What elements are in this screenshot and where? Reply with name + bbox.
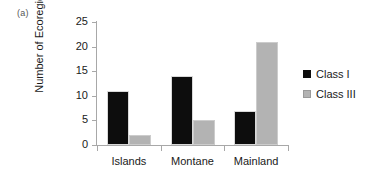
legend-item-class-iii[interactable]: Class III — [303, 84, 356, 104]
y-tick-label: 20 — [62, 41, 88, 52]
y-tick-label: 15 — [62, 65, 88, 76]
bar-montane-class-iii — [193, 120, 215, 145]
legend-label: Class III — [316, 88, 356, 100]
panel-label: (a) — [17, 8, 29, 18]
black-square-icon — [303, 70, 311, 78]
bar-islands-class-i — [107, 91, 129, 145]
bar-chart-figure: (a) Number of Ecoregions 0510152025 Isla… — [0, 0, 374, 179]
legend-item-class-i[interactable]: Class I — [303, 64, 356, 84]
x-tick-mark — [97, 146, 98, 151]
bar-montane-class-i — [171, 76, 193, 145]
x-axis-line — [96, 145, 289, 146]
legend-label: Class I — [316, 68, 350, 80]
x-tick-label-mainland: Mainland — [216, 155, 296, 168]
bar-islands-class-iii — [129, 135, 151, 145]
x-tick-mark — [224, 146, 225, 151]
y-tick-label: 25 — [62, 16, 88, 27]
bar-mainland-class-i — [234, 111, 256, 145]
y-tick-label: 10 — [62, 90, 88, 101]
chart-legend: Class IClass III — [303, 64, 356, 104]
y-tick-label: 0 — [62, 139, 88, 150]
y-axis-title: Number of Ecoregions — [33, 0, 45, 98]
plot-area — [97, 22, 288, 145]
x-tick-mark — [288, 146, 289, 151]
x-tick-mark — [161, 146, 162, 151]
bar-mainland-class-iii — [256, 42, 278, 145]
y-tick-label: 5 — [62, 114, 88, 125]
gray-square-icon — [303, 90, 311, 98]
